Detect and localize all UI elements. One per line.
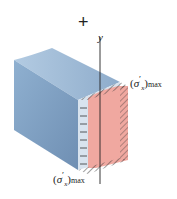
y-axis-label: y bbox=[98, 31, 103, 43]
max-subscript: max bbox=[71, 176, 85, 185]
stress-label-bottom: (σ′x)max bbox=[53, 170, 85, 188]
stress-label-top: (σ′x)max bbox=[130, 74, 162, 92]
sign-plus: + bbox=[78, 12, 89, 33]
prime: ′ bbox=[62, 170, 64, 180]
hatch-right bbox=[120, 86, 128, 160]
max-subscript: max bbox=[148, 80, 162, 89]
prime: ′ bbox=[139, 74, 141, 84]
